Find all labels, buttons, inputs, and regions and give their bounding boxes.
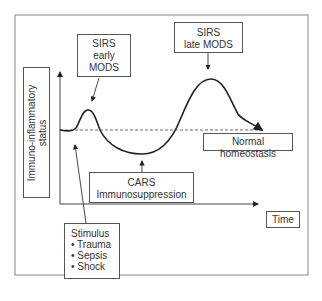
stimulus-box: Stimulus • Trauma • Sepsis • Shock <box>64 223 120 279</box>
stimulus-item-sepsis: • Sepsis <box>71 250 119 261</box>
sirs-early-line2: early <box>78 50 130 62</box>
sirs-early-line3: MODS <box>78 62 130 74</box>
cars-box: CARS Immunosuppression <box>89 172 194 203</box>
y-axis-label-line2: status <box>37 84 48 181</box>
stimulus-item-shock: • Shock <box>71 261 119 272</box>
y-axis-label-line1: Immuno-inflammatory <box>26 84 37 181</box>
stimulus-title: Stimulus <box>71 228 119 239</box>
sirs-early-box: SIRS early MODS <box>77 34 131 77</box>
normal-homeostasis-box: Normal homeostasis <box>203 133 293 151</box>
sirs-early-line1: SIRS <box>78 38 130 50</box>
cars-line2: Immunosuppression <box>90 189 193 201</box>
sirs-late-line1: SIRS <box>175 27 242 39</box>
x-axis-label: Time <box>272 214 294 225</box>
arrow-sirs-early <box>92 78 99 101</box>
sirs-late-line2: late MODS <box>175 39 242 51</box>
y-axis-label: Immuno-inflammatory status <box>26 84 48 181</box>
y-axis-label-box: Immuno-inflammatory status <box>23 67 50 198</box>
time-label-box: Time <box>266 211 300 228</box>
normal-homeostasis-label: Normal homeostasis <box>220 136 276 159</box>
arrow-stimulus <box>75 145 86 223</box>
cars-line1: CARS <box>90 177 193 189</box>
stimulus-item-trauma: • Trauma <box>71 239 119 250</box>
sirs-late-box: SIRS late MODS <box>174 22 243 53</box>
